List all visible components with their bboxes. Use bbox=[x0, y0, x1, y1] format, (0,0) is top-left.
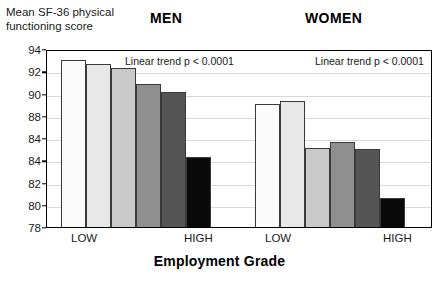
x-label-women-high: HIGH bbox=[383, 232, 412, 244]
y-tick-mark bbox=[42, 227, 46, 228]
group-header-men: MEN bbox=[150, 10, 182, 26]
group-header-women: WOMEN bbox=[305, 10, 362, 26]
y-tick-label: 90 bbox=[6, 89, 46, 101]
y-tick-mark bbox=[42, 138, 46, 139]
x-axis-title: Employment Grade bbox=[0, 253, 439, 269]
bar-women-6 bbox=[380, 198, 405, 227]
bar-men-2 bbox=[86, 64, 111, 227]
y-axis-ticks: 949290888484828078 bbox=[0, 50, 46, 228]
plot-area: Linear trend p < 0.0001 Linear trend p <… bbox=[46, 50, 432, 228]
x-label-men-low: LOW bbox=[71, 232, 97, 244]
bar-women-5 bbox=[355, 149, 380, 227]
bar-men-4 bbox=[136, 84, 161, 227]
y-tick-label: 82 bbox=[6, 178, 46, 190]
trend-annotation-men: Linear trend p < 0.0001 bbox=[125, 55, 234, 67]
bar-women-3 bbox=[305, 148, 330, 227]
bar-men-5 bbox=[161, 92, 186, 227]
y-tick-mark bbox=[42, 183, 46, 184]
y-tick-mark bbox=[42, 161, 46, 162]
plot-inner bbox=[47, 51, 431, 227]
y-tick-label: 84 bbox=[6, 133, 46, 145]
y-tick-mark bbox=[42, 94, 46, 95]
bar-women-4 bbox=[330, 142, 355, 227]
bar-men-3 bbox=[111, 68, 136, 227]
x-label-women-low: LOW bbox=[265, 232, 291, 244]
bar-men-1 bbox=[61, 60, 86, 227]
y-tick-label: 78 bbox=[6, 222, 46, 234]
y-tick-label: 92 bbox=[6, 66, 46, 78]
y-tick-mark bbox=[42, 205, 46, 206]
y-tick-label: 88 bbox=[6, 111, 46, 123]
trend-annotation-women: Linear trend p < 0.0001 bbox=[315, 55, 424, 67]
y-tick-label: 80 bbox=[6, 200, 46, 212]
y-axis-title: Mean SF-36 physical functioning score bbox=[6, 6, 141, 33]
y-tick-mark bbox=[42, 72, 46, 73]
y-tick-label: 94 bbox=[6, 44, 46, 56]
y-tick-mark bbox=[42, 49, 46, 50]
bar-women-2 bbox=[280, 101, 305, 227]
y-tick-mark bbox=[42, 116, 46, 117]
bar-men-6 bbox=[186, 157, 211, 227]
bar-women-1 bbox=[255, 104, 280, 227]
x-label-men-high: HIGH bbox=[184, 232, 213, 244]
y-tick-label: 84 bbox=[6, 155, 46, 167]
